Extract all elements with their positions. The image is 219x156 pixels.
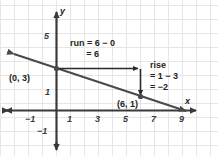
run-annotation: run = 6 − 0 = 6 [70, 38, 115, 60]
grid-lines [1, 0, 219, 156]
y-tick-label-neg1: −1 [37, 126, 47, 136]
y-tick-label-1: 1 [45, 87, 50, 97]
rise-annotation: rise = 1 − 3 = −2 [150, 60, 178, 93]
x-tick-label-5: 5 [123, 114, 128, 124]
x-axis-label: x [185, 96, 190, 106]
run-annotation-line2: = 6 [70, 49, 115, 60]
point-label-0-3: (0, 3) [9, 73, 30, 83]
y-tick-label-5: 5 [44, 31, 49, 41]
x-tick-label-7: 7 [151, 114, 156, 124]
y-axis-label: y [60, 6, 65, 16]
x-tick-label-1: 1 [67, 114, 72, 124]
run-annotation-line1: run = 6 − 0 [70, 38, 115, 49]
coordinate-plane-figure: x y −1 1 3 5 7 9 5 1 −1 (0, 3) (6, 1) ru… [0, 0, 218, 156]
point-label-6-1: (6, 1) [117, 99, 138, 109]
x-tick-label-9: 9 [179, 114, 184, 124]
rise-annotation-line2: = 1 − 3 [150, 71, 178, 82]
x-tick-label-3: 3 [95, 114, 100, 124]
point-0-3-marker [54, 66, 59, 71]
rise-annotation-line1: rise [150, 60, 178, 71]
rise-annotation-line3: = −2 [150, 82, 178, 93]
x-tick-label-neg1: −1 [25, 114, 35, 124]
point-6-1-marker [138, 94, 143, 99]
graph-canvas [0, 0, 218, 156]
